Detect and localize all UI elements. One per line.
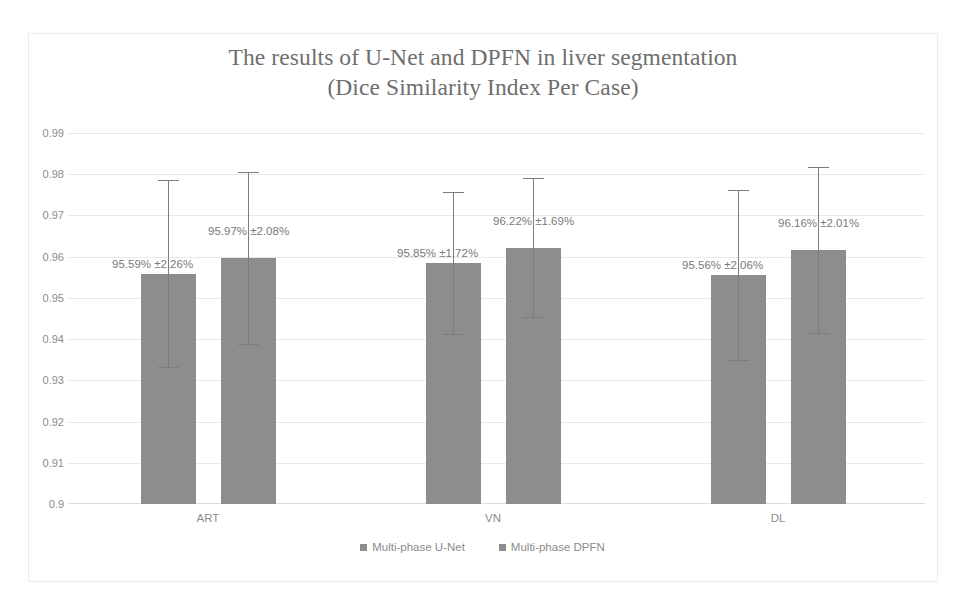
legend-swatch-icon — [360, 544, 367, 551]
x-tick-label-art: ART — [197, 512, 220, 524]
error-bar-cap-lower — [238, 344, 259, 345]
legend-item-u-net[interactable]: Multi-phase U-Net — [360, 541, 465, 553]
error-bar-cap-lower — [443, 334, 464, 335]
error-bar-line — [168, 180, 169, 366]
data-label-vn-u-net: 95.85% ±1.72% — [397, 247, 478, 259]
data-label-dl-dpfn: 96.16% ±2.01% — [778, 217, 859, 229]
legend-label: Multi-phase DPFN — [511, 541, 605, 553]
error-bar-line — [248, 172, 249, 343]
chart-container: The results of U-Net and DPFN in liver s… — [0, 0, 965, 611]
gridline — [68, 174, 925, 175]
data-label-art-u-net: 95.59% ±2.26% — [112, 258, 193, 270]
y-tick-label: 0.98 — [28, 168, 64, 180]
legend-label: Multi-phase U-Net — [372, 541, 465, 553]
error-bar-line — [453, 192, 454, 334]
error-bar-cap-upper — [158, 180, 179, 181]
error-bar-line — [738, 190, 739, 360]
legend-swatch-icon — [499, 544, 506, 551]
x-tick-label-vn: VN — [485, 512, 501, 524]
x-tick-label-dl: DL — [771, 512, 786, 524]
error-bar-cap-upper — [808, 167, 829, 168]
y-tick-label: 0.92 — [28, 416, 64, 428]
y-tick-label: 0.97 — [28, 209, 64, 221]
error-bar-cap-lower — [808, 333, 829, 334]
y-tick-label: 0.94 — [28, 333, 64, 345]
y-tick-label: 0.95 — [28, 292, 64, 304]
error-bar-line — [818, 167, 819, 333]
error-bar-line — [533, 178, 534, 317]
error-bar-cap-lower — [728, 360, 749, 361]
y-tick-label: 0.91 — [28, 457, 64, 469]
data-label-dl-u-net: 95.56% ±2.06% — [682, 259, 763, 271]
chart-title: The results of U-Net and DPFN in liver s… — [28, 42, 938, 102]
chart-legend: Multi-phase U-Net Multi-phase DPFN — [0, 541, 965, 553]
plot-area — [68, 133, 925, 504]
gridline — [68, 133, 925, 134]
error-bar-cap-upper — [443, 192, 464, 193]
y-tick-label: 0.99 — [28, 127, 64, 139]
y-axis-labels: 0.99 0.98 0.97 0.96 0.95 0.94 0.93 0.92 … — [20, 133, 64, 504]
error-bar-cap-upper — [728, 190, 749, 191]
error-bar-cap-lower — [158, 367, 179, 368]
y-tick-label: 0.93 — [28, 374, 64, 386]
error-bar-cap-lower — [523, 317, 544, 318]
legend-item-dpfn[interactable]: Multi-phase DPFN — [499, 541, 605, 553]
y-tick-label: 0.96 — [28, 251, 64, 263]
error-bar-cap-upper — [238, 172, 259, 173]
chart-title-line-2: (Dice Similarity Index Per Case) — [28, 72, 938, 102]
y-tick-label: 0.9 — [28, 498, 64, 510]
data-label-vn-dpfn: 96.22% ±1.69% — [493, 215, 574, 227]
chart-title-line-1: The results of U-Net and DPFN in liver s… — [229, 44, 738, 70]
data-label-art-dpfn: 95.97% ±2.08% — [208, 225, 289, 237]
error-bar-cap-upper — [523, 178, 544, 179]
